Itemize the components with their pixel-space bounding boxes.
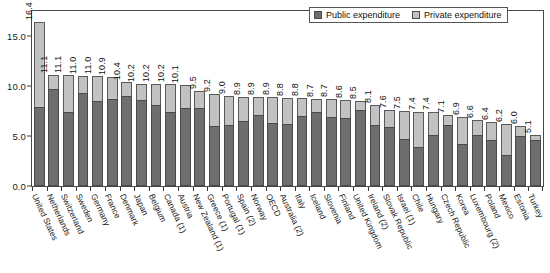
stacked-bar[interactable]: 11.1 [48, 75, 59, 186]
bar-segment-public[interactable] [48, 89, 59, 186]
stacked-bar[interactable]: 8.9 [253, 97, 264, 186]
stacked-bar[interactable]: 10.2 [165, 84, 176, 186]
stacked-bar[interactable]: 8.5 [355, 101, 366, 186]
stacked-bar[interactable]: 10.1 [180, 85, 191, 186]
bar-segment-public[interactable] [311, 112, 322, 186]
bar-slot[interactable]: 9.5 [193, 11, 208, 186]
bar-slot[interactable]: 16.4 [32, 11, 47, 186]
bar-segment-private[interactable] [282, 98, 293, 124]
stacked-bar[interactable]: 9.5 [194, 91, 205, 186]
bar-segment-public[interactable] [121, 96, 132, 186]
bar-segment-private[interactable] [486, 122, 497, 140]
stacked-bar[interactable]: 7.5 [399, 111, 410, 186]
bar-segment-private[interactable] [443, 115, 454, 125]
bar-segment-private[interactable] [326, 99, 337, 117]
bar-segment-public[interactable] [136, 100, 147, 186]
bar-slot[interactable]: 11.1 [61, 11, 76, 186]
bar-slot[interactable]: 11.1 [47, 11, 62, 186]
bar-slot[interactable]: 6.6 [470, 11, 485, 186]
stacked-bar[interactable]: 10.2 [151, 84, 162, 186]
bar-segment-private[interactable] [253, 97, 264, 115]
bar-segment-public[interactable] [472, 135, 483, 186]
bar-segment-public[interactable] [399, 139, 410, 186]
bar-segment-private[interactable] [399, 111, 410, 139]
legend-item-private[interactable]: Private expenditure [412, 10, 502, 20]
bar-slot[interactable]: 10.2 [149, 11, 164, 186]
bar-segment-public[interactable] [209, 126, 220, 186]
bar-segment-private[interactable] [136, 84, 147, 100]
bar-segment-private[interactable] [194, 91, 205, 108]
bar-slot[interactable]: 9.2 [207, 11, 222, 186]
stacked-bar[interactable]: 5.1 [530, 135, 541, 186]
bar-segment-public[interactable] [238, 121, 249, 186]
stacked-bar[interactable]: 8.8 [297, 98, 308, 186]
bar-segment-private[interactable] [209, 94, 220, 126]
bar-segment-private[interactable] [457, 117, 468, 144]
stacked-bar[interactable]: 7.6 [384, 110, 395, 186]
stacked-bar[interactable]: 8.9 [238, 97, 249, 186]
bar-segment-public[interactable] [443, 125, 454, 186]
bar-slot[interactable]: 8.7 [309, 11, 324, 186]
stacked-bar[interactable]: 10.9 [107, 77, 118, 186]
bar-segment-public[interactable] [282, 124, 293, 186]
stacked-bar[interactable]: 16.4 [34, 22, 45, 186]
stacked-bar[interactable]: 8.9 [267, 97, 278, 186]
bar-slot[interactable]: 6.0 [514, 11, 529, 186]
stacked-bar[interactable]: 6.9 [457, 117, 468, 186]
stacked-bar[interactable]: 10.2 [136, 84, 147, 186]
bar-segment-private[interactable] [121, 82, 132, 96]
bar-slot[interactable]: 6.9 [455, 11, 470, 186]
stacked-bar[interactable]: 8.7 [326, 99, 337, 186]
bar-segment-public[interactable] [530, 140, 541, 186]
bar-segment-private[interactable] [165, 84, 176, 112]
bar-segment-private[interactable] [267, 97, 278, 123]
stacked-bar[interactable]: 11.0 [78, 76, 89, 186]
bar-slot[interactable]: 9.0 [222, 11, 237, 186]
bar-segment-private[interactable] [224, 96, 235, 125]
bar-segment-public[interactable] [180, 108, 191, 186]
bar-slot[interactable]: 5.1 [528, 11, 543, 186]
stacked-bar[interactable]: 10.4 [121, 82, 132, 186]
bar-slot[interactable]: 8.8 [295, 11, 310, 186]
bar-segment-private[interactable] [340, 100, 351, 118]
stacked-bar[interactable]: 6.2 [501, 124, 512, 186]
bar-segment-public[interactable] [457, 144, 468, 186]
bar-segment-private[interactable] [48, 75, 59, 89]
stacked-bar[interactable]: 9.2 [209, 94, 220, 186]
stacked-bar[interactable]: 8.8 [282, 98, 293, 186]
stacked-bar[interactable]: 6.4 [486, 122, 497, 186]
bar-segment-private[interactable] [413, 112, 424, 147]
bar-segment-public[interactable] [370, 125, 381, 186]
bar-slot[interactable]: 10.2 [163, 11, 178, 186]
bar-segment-public[interactable] [413, 147, 424, 186]
stacked-bar[interactable]: 8.7 [311, 99, 322, 186]
bar-slot[interactable]: 7.4 [426, 11, 441, 186]
bar-slot[interactable]: 11.0 [76, 11, 91, 186]
bar-segment-private[interactable] [92, 76, 103, 101]
bar-segment-public[interactable] [515, 136, 526, 186]
bar-slot[interactable]: 8.9 [251, 11, 266, 186]
stacked-bar[interactable]: 7.4 [428, 112, 439, 186]
stacked-bar[interactable]: 8.1 [370, 105, 381, 186]
bar-slot[interactable]: 10.4 [120, 11, 135, 186]
stacked-bar[interactable]: 8.6 [340, 100, 351, 186]
bar-segment-public[interactable] [63, 112, 74, 186]
legend-item-public[interactable]: Public expenditure [314, 10, 400, 20]
bar-segment-public[interactable] [486, 140, 497, 186]
bar-segment-public[interactable] [78, 93, 89, 186]
stacked-bar[interactable]: 6.0 [515, 126, 526, 186]
bar-segment-public[interactable] [165, 112, 176, 186]
stacked-bar[interactable]: 7.1 [443, 115, 454, 186]
bar-segment-public[interactable] [384, 127, 395, 186]
bar-slot[interactable]: 8.9 [266, 11, 281, 186]
bar-segment-public[interactable] [428, 135, 439, 186]
bar-segment-private[interactable] [107, 77, 118, 99]
stacked-bar[interactable]: 6.6 [472, 120, 483, 186]
bar-segment-public[interactable] [340, 118, 351, 186]
bar-slot[interactable]: 6.2 [499, 11, 514, 186]
stacked-bar[interactable]: 9.0 [224, 96, 235, 186]
bar-segment-public[interactable] [267, 123, 278, 186]
bar-segment-public[interactable] [253, 115, 264, 186]
bar-segment-public[interactable] [326, 117, 337, 186]
bar-segment-private[interactable] [151, 84, 162, 105]
